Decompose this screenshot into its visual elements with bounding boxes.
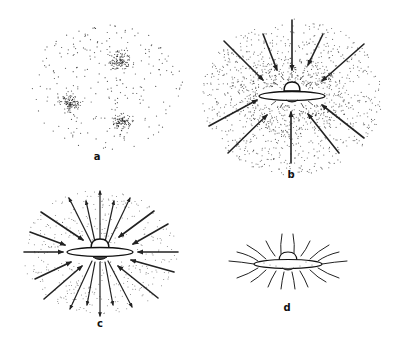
panel-d-label: d <box>283 302 290 313</box>
panel-a-label: a <box>94 151 101 162</box>
panel-c-label: c <box>97 318 103 329</box>
panel-b-disc <box>259 82 325 102</box>
diagram-canvas <box>0 0 403 342</box>
panel-b-label: b <box>287 169 294 180</box>
panel-d-disc <box>254 252 322 270</box>
panel-a-cloud <box>32 25 183 150</box>
panel-c-disc <box>67 239 133 260</box>
